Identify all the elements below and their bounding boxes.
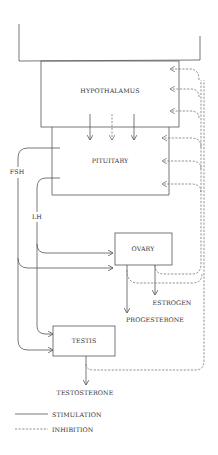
hormone-feedback-diagram: HYPOTHALAMUS PITUITARY FSH LH OVARY ESTR… bbox=[0, 0, 218, 455]
hypothalamus-label: HYPOTHALAMUS bbox=[80, 87, 139, 94]
testis-label: TESTIS bbox=[72, 337, 97, 344]
fsh-label: FSH bbox=[10, 168, 25, 175]
testis-output: TESTOSTERONE bbox=[57, 356, 114, 396]
lh-label: LH bbox=[32, 213, 42, 220]
legend-inhibition-label: INHIBITION bbox=[52, 426, 94, 433]
testosterone-label: TESTOSTERONE bbox=[57, 389, 114, 396]
pituitary-label: PITUITARY bbox=[92, 157, 129, 164]
legend-stimulation-label: STIMULATION bbox=[52, 411, 102, 418]
lh-pathway: LH bbox=[32, 178, 113, 334]
brain-outline bbox=[19, 24, 200, 61]
fsh-pathway: FSH bbox=[10, 148, 113, 350]
legend: STIMULATION INHIBITION bbox=[15, 411, 102, 433]
ovary-box: OVARY bbox=[115, 233, 172, 265]
pituitary-box: PITUITARY bbox=[52, 127, 169, 195]
inhibition-feedback bbox=[86, 69, 204, 370]
testis-box: TESTIS bbox=[53, 326, 115, 356]
progesterone-label: PROGESTERONE bbox=[126, 316, 184, 323]
hypothalamus-box: HYPOTHALAMUS bbox=[41, 61, 179, 127]
ovary-label: OVARY bbox=[132, 245, 156, 252]
estrogen-label: ESTROGEN bbox=[153, 299, 192, 306]
